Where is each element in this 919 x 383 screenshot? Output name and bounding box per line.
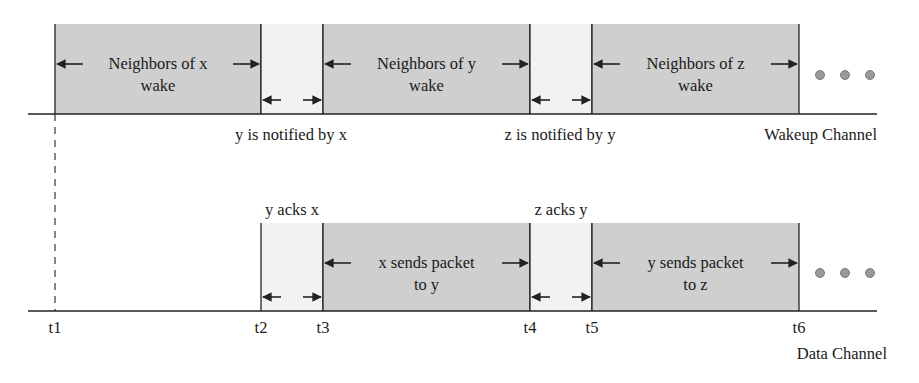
time-mark-label: t5 bbox=[586, 318, 599, 337]
period-label: to y bbox=[414, 275, 440, 294]
period-label: wake bbox=[141, 76, 176, 95]
time-mark-label: t1 bbox=[49, 318, 62, 337]
period-label: Neighbors of y bbox=[377, 54, 477, 73]
period-label: wake bbox=[678, 76, 713, 95]
period-label: Neighbors of z bbox=[646, 54, 744, 73]
continuation-dot-icon bbox=[816, 71, 825, 80]
time-mark-label: t4 bbox=[524, 318, 537, 337]
ack-label: y acks x bbox=[265, 200, 320, 219]
notification-label: y is notified by x bbox=[235, 125, 348, 144]
time-mark-label: t6 bbox=[793, 318, 806, 337]
wakeup-channel: Neighbors of xwakeNeighbors of ywakeNeig… bbox=[28, 24, 877, 144]
period-label: y sends packet bbox=[647, 253, 744, 272]
period-label: wake bbox=[409, 76, 444, 95]
continuation-dot-icon bbox=[841, 71, 850, 80]
notification-label: z is notified by y bbox=[505, 125, 617, 144]
period-label: to z bbox=[683, 275, 707, 294]
continuation-dot-icon bbox=[816, 269, 825, 278]
data-channel: y acks xx sends packetto yz acks yy send… bbox=[28, 200, 887, 363]
continuation-dot-icon bbox=[841, 269, 850, 278]
period-label: x sends packet bbox=[378, 253, 475, 272]
time-mark-label: t3 bbox=[317, 318, 330, 337]
continuation-dot-icon bbox=[866, 71, 875, 80]
ack-label: z acks y bbox=[534, 200, 588, 219]
data-channel-label: Data Channel bbox=[797, 344, 888, 363]
continuation-dot-icon bbox=[866, 269, 875, 278]
wakeup-channel-label: Wakeup Channel bbox=[764, 125, 877, 144]
wakeup-data-channel-timing-diagram: Neighbors of xwakeNeighbors of ywakeNeig… bbox=[0, 0, 919, 383]
period-label: Neighbors of x bbox=[109, 54, 209, 73]
time-mark-label: t2 bbox=[255, 318, 268, 337]
